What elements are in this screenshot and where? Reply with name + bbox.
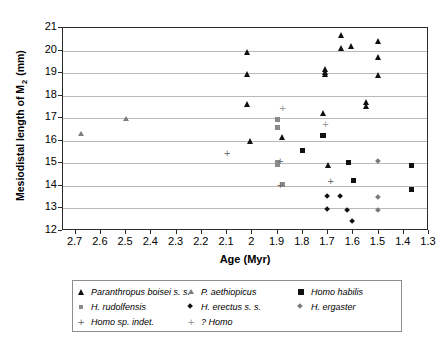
y-tick-label: 21 (22, 21, 62, 32)
legend-label: Homo habilis (311, 285, 363, 300)
marker-square (409, 187, 414, 192)
marker-square (409, 163, 414, 168)
marker-square (300, 148, 305, 153)
gridline (63, 118, 427, 119)
marker-triangle (338, 32, 344, 38)
legend-label: H. rudolfensis (91, 300, 146, 315)
legend-row: Paranthropus boisei s. s.P. aethiopicusH… (73, 285, 401, 300)
x-tick-label: 1.3 (411, 236, 445, 247)
x-tick-mark (277, 230, 278, 234)
y-tick-label: 19 (22, 66, 62, 77)
plot-area (62, 27, 428, 230)
x-tick-mark (176, 230, 177, 234)
marker-triangle (375, 38, 381, 44)
x-tick-mark (302, 230, 303, 234)
y-tick-label: 12 (22, 224, 62, 235)
marker-square (346, 160, 351, 165)
marker-triangle (78, 289, 84, 295)
marker-plus (77, 318, 85, 326)
legend-label: H. ergaster (311, 300, 356, 315)
gridline (63, 163, 427, 164)
scatter-chart-figure: Mesiodistal length of M2 (mm) 1213141516… (0, 0, 446, 340)
marker-diamond-light (375, 158, 380, 163)
x-tick-mark (251, 230, 252, 234)
gridline (63, 208, 427, 209)
y-tick-label: 15 (22, 156, 62, 167)
marker-triangle (322, 71, 328, 77)
marker-plus-light (187, 318, 195, 326)
marker-diamond (324, 193, 330, 199)
x-tick-mark (428, 230, 429, 234)
marker-plus (276, 181, 284, 189)
x-tick-mark (201, 230, 202, 234)
x-tick-mark (226, 230, 227, 234)
x-tick-mark (403, 230, 404, 234)
x-tick-mark (125, 230, 126, 234)
y-tick-label: 18 (22, 89, 62, 100)
marker-plus (327, 177, 335, 185)
gridline (63, 141, 427, 142)
marker-diamond (337, 193, 343, 199)
y-axis-title-subscript: 2 (21, 79, 30, 85)
marker-plus-light (322, 120, 330, 128)
marker-diamond-light (375, 194, 380, 199)
marker-diamond (187, 303, 193, 309)
y-tick-label: 14 (22, 179, 62, 190)
x-tick-mark (100, 230, 101, 234)
x-tick-mark (327, 230, 328, 234)
marker-triangle-light (123, 116, 129, 121)
y-tick-label: 17 (22, 111, 62, 122)
marker-diamond (349, 218, 355, 224)
marker-triangle (338, 45, 344, 51)
y-tick-label: 13 (22, 201, 62, 212)
legend-label: ? Homo (201, 315, 233, 330)
legend-label: P. aethiopicus (201, 285, 256, 300)
legend-label: H. erectus s. s. (201, 300, 261, 315)
marker-triangle (325, 162, 331, 168)
marker-diamond-light (298, 304, 303, 309)
chart-legend: Paranthropus boisei s. s.P. aethiopicusH… (72, 280, 402, 332)
marker-triangle (363, 103, 369, 109)
marker-triangle-light (78, 131, 84, 136)
marker-plus (276, 157, 284, 165)
marker-square-light (79, 305, 84, 310)
marker-triangle (375, 72, 381, 78)
marker-plus (223, 149, 231, 157)
x-tick-mark (150, 230, 151, 234)
marker-square-light (275, 125, 280, 130)
y-tick-label: 20 (22, 44, 62, 55)
marker-square-light (275, 117, 280, 122)
marker-triangle (375, 54, 381, 60)
y-tick-mark (58, 230, 62, 231)
marker-triangle (247, 138, 253, 144)
gridline (63, 186, 427, 187)
marker-plus-light (279, 104, 287, 112)
x-tick-mark (352, 230, 353, 234)
marker-square (320, 133, 325, 138)
marker-triangle (244, 101, 250, 107)
gridline (63, 96, 427, 97)
legend-row: Homo sp. indet.? Homo (73, 315, 401, 330)
y-axis-title: Mesiodistal length of M2 (mm) (14, 26, 29, 226)
y-tick-label: 16 (22, 134, 62, 145)
marker-triangle (244, 71, 250, 77)
marker-square (351, 178, 356, 183)
marker-square (298, 289, 303, 294)
x-tick-mark (75, 230, 76, 234)
legend-label: Homo sp. indet. (91, 315, 154, 330)
marker-triangle (348, 43, 354, 49)
marker-triangle (244, 49, 250, 55)
legend-row: H. rudolfensisH. erectus s. s.H. ergaste… (73, 300, 401, 315)
legend-label: Paranthropus boisei s. s. (91, 285, 190, 300)
marker-diamond (324, 206, 330, 212)
x-tick-mark (378, 230, 379, 234)
marker-triangle (320, 110, 326, 116)
marker-triangle-light (188, 289, 194, 294)
marker-triangle (279, 134, 285, 140)
x-axis-title: Age (Myr) (62, 253, 428, 265)
